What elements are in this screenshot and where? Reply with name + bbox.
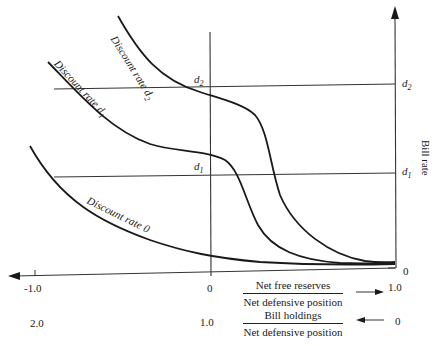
- right-tick-zero: 0: [403, 266, 409, 277]
- bill-rate-axis-label-text: Bill rate: [420, 140, 432, 176]
- bill-holdings-fraction: Bill holdings Net defensive position: [243, 310, 343, 338]
- x2-tick-zero: 0: [395, 316, 401, 327]
- right-tick-d1: d1: [402, 166, 412, 180]
- net-free-reserves-fraction: Net free reserves Net defensive position: [243, 280, 343, 308]
- right-tick-zero-text: 0: [403, 265, 409, 277]
- right-tick-d1-sub: 1: [408, 171, 412, 180]
- curve-discount-rate-d1: [48, 62, 395, 263]
- fraction-top-denominator: Net defensive position: [243, 294, 343, 308]
- fraction-bottom-denominator: Net defensive position: [243, 324, 343, 338]
- diagram-canvas: [0, 0, 436, 346]
- horizontal-axis: [14, 268, 395, 276]
- curve-discount-rate-d2: [118, 16, 395, 262]
- fraction-top-numerator: Net free reserves: [243, 280, 343, 294]
- bill-rate-axis-label: Bill rate: [420, 140, 431, 176]
- right-arrow-icon: [375, 289, 384, 295]
- bill-rate-axis-arrowhead-icon: [391, 6, 399, 19]
- inner-label-d2: d2: [194, 74, 204, 88]
- right-tick-d2: d2: [402, 78, 412, 92]
- horizontal-axis-arrowhead-icon: [8, 272, 20, 280]
- x2-tick-one: 1.0: [200, 317, 214, 328]
- x-tick-one: 1.0: [388, 282, 402, 293]
- left-arrow-icon: [356, 317, 365, 323]
- right-tick-d2-sub: 2: [408, 83, 412, 92]
- d1-level-line: [54, 173, 395, 177]
- curve-discount-rate-0: [30, 146, 395, 265]
- inner-label-d1: d1: [194, 161, 204, 175]
- x-tick-minus-one: -1.0: [24, 283, 41, 294]
- x2-tick-two: 2.0: [30, 318, 44, 329]
- bill-rate-axis: [395, 16, 396, 268]
- x-tick-zero: 0: [207, 283, 213, 294]
- d2-level-line: [54, 84, 395, 89]
- inner-label-d1-sub: 1: [200, 166, 204, 175]
- fraction-bottom-numerator: Bill holdings: [243, 310, 343, 324]
- inner-label-d2-sub: 2: [200, 79, 204, 88]
